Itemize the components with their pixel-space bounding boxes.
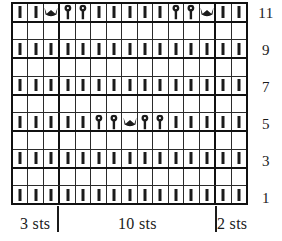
- chart-cell: [200, 186, 216, 203]
- chart-row-11: [13, 4, 246, 23]
- chart-cell: [153, 96, 168, 113]
- chart-cell: [91, 96, 106, 113]
- chart-cell: [153, 186, 168, 203]
- chart-cell: [60, 132, 75, 149]
- chart-cell: [169, 4, 184, 21]
- chart-cell: [232, 96, 246, 113]
- chart-cell: [60, 169, 75, 186]
- chart-cell: [200, 59, 216, 76]
- chart-cell: [216, 59, 231, 76]
- knit-stitch-icon: [33, 189, 38, 201]
- chart-cell: [122, 77, 137, 94]
- chart-cell: [184, 77, 199, 94]
- knit-stitch-icon: [221, 43, 226, 55]
- chart-cell: [60, 186, 75, 203]
- chart-cell: [107, 59, 122, 76]
- chart-cell: [28, 113, 43, 130]
- crown-stitch-icon: [44, 7, 59, 18]
- chart-cell: [44, 77, 60, 94]
- chart-cell: [44, 96, 60, 113]
- chart-cell: [60, 4, 75, 21]
- chart-cell: [153, 150, 168, 167]
- knit-stitch-icon: [65, 43, 70, 55]
- knit-stitch-icon: [18, 116, 23, 128]
- chart-cell: [216, 186, 231, 203]
- chart-cell: [153, 40, 168, 57]
- knit-stitch-icon: [158, 152, 163, 164]
- chart-cell: [200, 96, 216, 113]
- chart-cell: [138, 186, 153, 203]
- chart-cell: [169, 23, 184, 40]
- chart-cell: [107, 23, 122, 40]
- chart-cell: [232, 59, 246, 76]
- chart-cell: [44, 59, 60, 76]
- bobble-stitch-icon: [62, 5, 73, 20]
- chart-cell: [153, 169, 168, 186]
- chart-cell: [60, 40, 75, 57]
- chart-cell: [91, 77, 106, 94]
- knit-stitch-icon: [221, 116, 226, 128]
- knit-stitch-icon: [65, 152, 70, 164]
- chart-cell: [107, 186, 122, 203]
- knit-stitch-icon: [112, 43, 117, 55]
- knit-stitch-icon: [112, 6, 117, 18]
- chart-row-1: [13, 186, 246, 203]
- bobble-stitch-icon: [186, 5, 197, 20]
- knit-stitch-icon: [49, 79, 54, 91]
- knit-stitch-icon: [112, 152, 117, 164]
- chart-cell: [232, 113, 246, 130]
- knit-stitch-icon: [49, 189, 54, 201]
- chart-cell: [28, 96, 43, 113]
- knit-stitch-icon: [221, 6, 226, 18]
- chart-cell: [122, 96, 137, 113]
- chart-cell: [184, 150, 199, 167]
- chart-row-9: [13, 40, 246, 59]
- axis-segment-label: 2 sts: [217, 215, 247, 233]
- chart-cell: [76, 59, 91, 76]
- chart-cell: [28, 59, 43, 76]
- chart-cell: [232, 40, 246, 57]
- chart-cell: [107, 113, 122, 130]
- chart-row-6: [13, 96, 246, 114]
- chart-cell: [107, 77, 122, 94]
- chart-cell: [28, 40, 43, 57]
- bobble-stitch-icon: [170, 5, 181, 20]
- knit-stitch-icon: [142, 6, 147, 18]
- chart-cell: [91, 169, 106, 186]
- chart-cell: [216, 150, 231, 167]
- chart-cell: [184, 40, 199, 57]
- chart-cell: [138, 113, 153, 130]
- chart-cell: [232, 23, 246, 40]
- chart-cell: [13, 150, 28, 167]
- chart-cell: [200, 23, 216, 40]
- knit-stitch-icon: [18, 43, 23, 55]
- chart-cell: [44, 132, 60, 149]
- row-number-label: 7: [252, 79, 280, 96]
- chart-cell: [13, 113, 28, 130]
- chart-cell: [44, 40, 60, 57]
- chart-cell: [184, 59, 199, 76]
- chart-cell: [91, 113, 106, 130]
- chart-row-8: [13, 59, 246, 77]
- chart-cell: [91, 186, 106, 203]
- chart-cell: [28, 132, 43, 149]
- chart-cell: [122, 132, 137, 149]
- chart-row-4: [13, 132, 246, 150]
- row-number-label: 11: [252, 5, 280, 22]
- chart-cell: [138, 23, 153, 40]
- chart-cell: [184, 113, 199, 130]
- chart-cell: [232, 77, 246, 94]
- row-number-label: 9: [252, 42, 280, 59]
- chart-cell: [169, 113, 184, 130]
- chart-cell: [216, 96, 231, 113]
- knit-stitch-icon: [33, 116, 38, 128]
- chart-cell: [184, 186, 199, 203]
- chart-cell: [216, 77, 231, 94]
- chart-cell: [232, 186, 246, 203]
- chart-cell: [91, 150, 106, 167]
- chart-cell: [169, 96, 184, 113]
- chart-cell: [76, 23, 91, 40]
- knit-stitch-icon: [236, 43, 241, 55]
- knit-stitch-icon: [189, 43, 194, 55]
- crown-stitch-icon: [122, 116, 137, 127]
